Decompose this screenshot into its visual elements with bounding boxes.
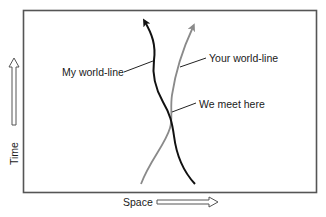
diagram-frame	[24, 11, 317, 193]
space-axis-arrow-icon	[157, 197, 218, 207]
your-world-line	[141, 27, 193, 184]
your-world-line-leader	[180, 58, 206, 67]
my-world-line-leader	[124, 61, 153, 72]
meeting-point-label: We meet here	[199, 98, 265, 110]
space-axis-label: Space	[123, 196, 153, 208]
time-axis-label: Time	[8, 142, 20, 165]
my-world-line-label: My world-line	[62, 66, 124, 78]
spacetime-diagram: My world-line Your world-line We meet he…	[0, 0, 326, 217]
time-axis-arrow-icon	[9, 58, 19, 125]
meeting-point-leader	[172, 103, 196, 112]
your-world-line-label: Your world-line	[209, 52, 278, 64]
